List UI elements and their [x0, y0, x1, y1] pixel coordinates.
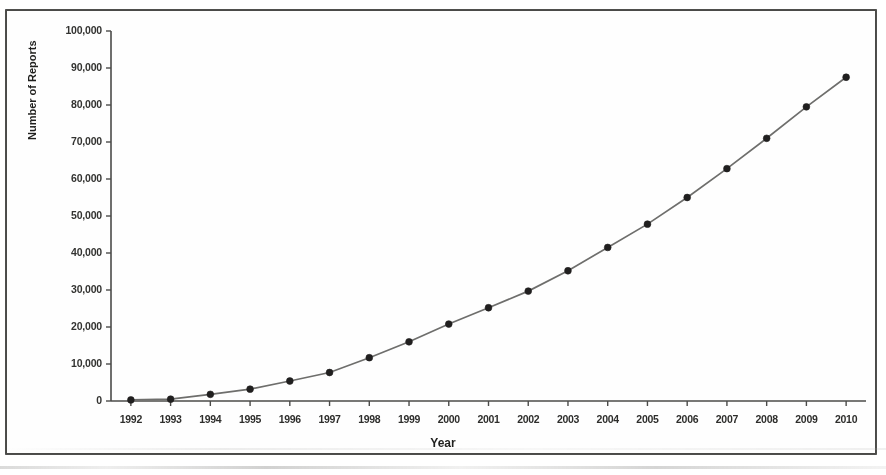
y-axis-title: Number of Reports	[26, 0, 38, 140]
scan-artifact-lower	[0, 466, 886, 469]
data-point-marker	[366, 354, 373, 361]
x-axis-tick-label: 1994	[188, 413, 232, 425]
data-point-marker	[127, 396, 134, 403]
x-axis-tick-label: 2008	[745, 413, 789, 425]
x-axis-tick-label: 1995	[228, 413, 272, 425]
x-axis-tick-label: 1997	[308, 413, 352, 425]
x-axis-tick-label: 1993	[149, 413, 193, 425]
y-axis-tick-label: 0	[18, 394, 102, 406]
x-axis-tick-label: 2006	[665, 413, 709, 425]
x-axis-tick-label: 2005	[625, 413, 669, 425]
line-chart-plot	[0, 0, 886, 475]
data-point-marker	[803, 103, 810, 110]
data-point-marker	[604, 244, 611, 251]
data-point-marker	[644, 221, 651, 228]
x-axis-tick-label: 1998	[347, 413, 391, 425]
x-axis-tick-label: 1996	[268, 413, 312, 425]
x-axis-tick-label: 2009	[784, 413, 828, 425]
scan-artifact-upper	[0, 448, 886, 450]
data-point-marker	[724, 165, 731, 172]
data-point-marker	[247, 386, 254, 393]
data-point-marker	[326, 369, 333, 376]
data-point-marker	[286, 378, 293, 385]
chart-screenshot: 010,00020,00030,00040,00050,00060,00070,…	[0, 0, 886, 475]
data-point-marker	[684, 194, 691, 201]
data-point-marker	[167, 396, 174, 403]
data-point-marker	[763, 135, 770, 142]
data-point-marker	[485, 304, 492, 311]
x-axis-tick-label: 2001	[467, 413, 511, 425]
y-axis-tick-label: 60,000	[18, 172, 102, 184]
data-point-marker	[445, 321, 452, 328]
y-axis-tick-label: 30,000	[18, 283, 102, 295]
data-point-marker	[843, 74, 850, 81]
x-axis-tick-label: 2000	[427, 413, 471, 425]
y-axis-tick-label: 40,000	[18, 246, 102, 258]
data-point-marker	[207, 391, 214, 398]
x-axis-tick-label: 1999	[387, 413, 431, 425]
y-axis-tick-label: 10,000	[18, 357, 102, 369]
x-axis-tick-label: 2007	[705, 413, 749, 425]
data-point-marker	[406, 338, 413, 345]
x-axis-tick-label: 2002	[506, 413, 550, 425]
data-series-markers	[127, 74, 849, 403]
data-point-marker	[565, 267, 572, 274]
y-axis-tick-label: 50,000	[18, 209, 102, 221]
y-axis-tick-label: 20,000	[18, 320, 102, 332]
x-axis-tick-label: 1992	[109, 413, 153, 425]
x-axis-tick-label: 2003	[546, 413, 590, 425]
x-axis-tick-label: 2010	[824, 413, 868, 425]
data-point-marker	[525, 288, 532, 295]
x-axis-tick-label: 2004	[586, 413, 630, 425]
data-series-line	[131, 77, 846, 400]
